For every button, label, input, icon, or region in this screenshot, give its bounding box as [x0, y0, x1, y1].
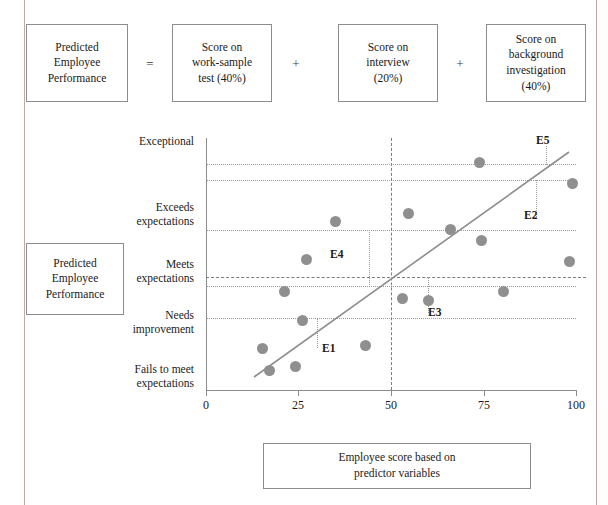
data-point: [474, 157, 485, 168]
data-point: [360, 340, 371, 351]
trend-line: [0, 0, 608, 505]
data-point: [476, 235, 487, 246]
annotation-e5: E5: [536, 134, 549, 146]
data-point: [301, 254, 312, 265]
x-axis-caption-box: Employee score based on predictor variab…: [263, 443, 531, 489]
annotation-e1: E1: [322, 342, 335, 354]
data-point: [567, 178, 578, 189]
annotation-e3: E3: [428, 306, 441, 318]
data-point: [564, 256, 575, 267]
data-point: [297, 315, 308, 326]
data-point: [330, 216, 341, 227]
data-point: [397, 293, 408, 304]
data-point: [264, 365, 275, 376]
data-point: [257, 343, 268, 354]
data-point: [498, 286, 509, 297]
data-point: [423, 295, 434, 306]
annotation-e4: E4: [330, 248, 343, 260]
data-point: [290, 361, 301, 372]
annotation-e2: E2: [524, 209, 537, 221]
data-point: [279, 286, 290, 297]
figure-container: Predicted Employee Performance = Score o…: [0, 0, 608, 505]
data-point: [445, 224, 456, 235]
data-point: [403, 208, 414, 219]
x-axis-caption-label: Employee score based on predictor variab…: [338, 450, 455, 481]
